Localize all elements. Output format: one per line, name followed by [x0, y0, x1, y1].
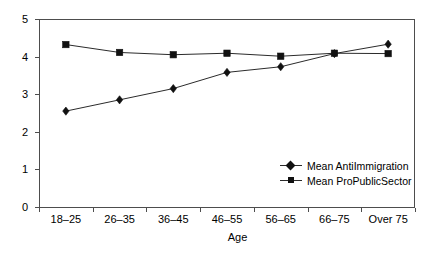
y-tick-label-5: 5 [22, 14, 28, 25]
square-marker-icon [280, 175, 302, 187]
y-axis: 5 4 3 2 1 0 [0, 0, 36, 259]
y-tick-mark-1 [35, 169, 39, 170]
y-tick-mark-2 [35, 132, 39, 133]
x-axis-title-text: Age [189, 231, 248, 243]
y-tick-label-1: 1 [22, 164, 28, 175]
x-axis-title: Age [0, 231, 436, 244]
x-tick-label-3: 46–55 [212, 213, 243, 226]
y-tick-mark-5 [35, 19, 39, 20]
x-tick-mark-3 [200, 208, 201, 212]
y-tick-label-0: 0 [22, 202, 28, 213]
line-chart: 5 4 3 2 1 0 18–25 26–35 36–45 46–55 56–6… [0, 0, 436, 259]
legend-label-propublicsector: Mean ProPublicSector [307, 174, 411, 188]
legend-entry-propublicsector: Mean ProPublicSector [280, 173, 411, 188]
diamond-marker-icon [280, 160, 302, 172]
y-tick-label-2: 2 [22, 126, 28, 137]
x-tick-label-0: 18–25 [51, 213, 82, 226]
y-tick-label-4: 4 [22, 51, 28, 62]
legend-entry-antiimmigration: Mean AntiImmigration [280, 158, 411, 173]
x-tick-mark-0 [39, 208, 40, 212]
legend: Mean AntiImmigration Mean ProPublicSecto… [280, 158, 411, 188]
x-tick-mark-1 [93, 208, 94, 212]
y-tick-mark-4 [35, 57, 39, 58]
x-tick-mark-6 [361, 208, 362, 212]
x-tick-mark-4 [254, 208, 255, 212]
x-tick-label-6: Over 75 [369, 213, 408, 226]
x-tick-label-4: 56–65 [265, 213, 296, 226]
x-tick-mark-2 [146, 208, 147, 212]
x-tick-label-5: 66–75 [319, 213, 350, 226]
y-tick-mark-3 [35, 94, 39, 95]
legend-label-antiimmigration: Mean AntiImmigration [307, 159, 409, 173]
x-tick-label-2: 36–45 [158, 213, 189, 226]
x-tick-mark-7 [415, 208, 416, 212]
x-tick-mark-5 [308, 208, 309, 212]
y-tick-label-3: 3 [22, 89, 28, 100]
x-tick-label-1: 26–35 [104, 213, 135, 226]
